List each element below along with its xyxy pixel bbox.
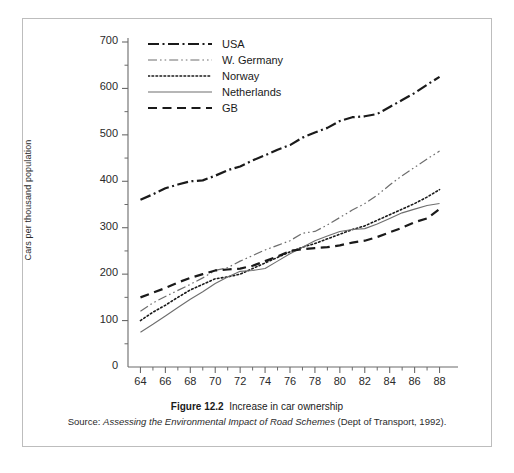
y-tick-label: 200 xyxy=(88,266,118,278)
y-tick-label: 400 xyxy=(88,173,118,185)
y-tick-label: 600 xyxy=(88,80,118,92)
source-prefix: Source: xyxy=(68,416,101,427)
x-tick-label: 68 xyxy=(179,375,201,387)
legend-line-swatch xyxy=(148,54,212,66)
figure-caption: Figure 12.2 Increase in car ownership So… xyxy=(22,400,492,428)
x-tick-label: 74 xyxy=(254,375,276,387)
legend-item-w-germany: W. Germany xyxy=(148,52,283,68)
x-tick-label: 80 xyxy=(329,375,351,387)
y-tick-label: 300 xyxy=(88,220,118,232)
x-tick-label: 86 xyxy=(404,375,426,387)
x-tick-label: 66 xyxy=(154,375,176,387)
legend-label: Norway xyxy=(222,70,259,82)
caption-title-line: Figure 12.2 Increase in car ownership xyxy=(22,400,492,413)
legend-line-swatch xyxy=(148,70,212,82)
y-tick-label: 500 xyxy=(88,127,118,139)
series-line-norway xyxy=(140,190,439,321)
x-tick-label: 84 xyxy=(379,375,401,387)
legend-label: W. Germany xyxy=(222,54,283,66)
figure-number: Figure 12.2 xyxy=(171,401,224,412)
series-line-netherlands xyxy=(140,204,439,333)
y-axis-title: Cars per thousand population xyxy=(23,120,33,280)
legend-line-swatch xyxy=(148,102,212,114)
legend-item-norway: Norway xyxy=(148,68,283,84)
legend-item-netherlands: Netherlands xyxy=(148,84,283,100)
legend-label: Netherlands xyxy=(222,86,281,98)
legend-line-swatch xyxy=(148,38,212,50)
legend-item-gb: GB xyxy=(148,100,283,116)
x-tick-label: 78 xyxy=(304,375,326,387)
source-title: Assessing the Environmental Impact of Ro… xyxy=(103,416,335,427)
figure-title: Increase in car ownership xyxy=(229,401,343,412)
legend-line-swatch xyxy=(148,86,212,98)
x-tick-label: 64 xyxy=(129,375,151,387)
x-tick-label: 76 xyxy=(279,375,301,387)
figure-page: Cars per thousand population USAW. Germa… xyxy=(0,0,514,473)
legend-item-usa: USA xyxy=(148,36,283,52)
legend-label: USA xyxy=(222,38,245,50)
y-tick-label: 100 xyxy=(88,313,118,325)
x-tick-label: 70 xyxy=(204,375,226,387)
x-tick-label: 88 xyxy=(429,375,451,387)
legend-label: GB xyxy=(222,102,238,114)
chart-legend: USAW. GermanyNorwayNetherlandsGB xyxy=(148,36,283,116)
y-tick-label: 700 xyxy=(88,34,118,46)
x-tick-label: 82 xyxy=(354,375,376,387)
caption-source-line: Source: Assessing the Environmental Impa… xyxy=(22,415,492,428)
source-suffix: (Dept of Transport, 1992). xyxy=(338,416,447,427)
x-tick-label: 72 xyxy=(229,375,251,387)
y-axis-origin-label: 0 xyxy=(88,359,118,371)
